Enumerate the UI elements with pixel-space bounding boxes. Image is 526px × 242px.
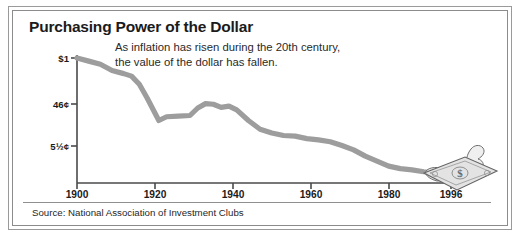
- chart-card: Purchasing Power of the Dollar As inflat…: [8, 6, 512, 230]
- data-series-line: [77, 58, 451, 174]
- source-divider: [23, 202, 491, 203]
- chart-plot-area: $: [9, 7, 513, 231]
- source-label: Source: National Association of Investme…: [32, 207, 244, 218]
- svg-text:$: $: [457, 167, 463, 179]
